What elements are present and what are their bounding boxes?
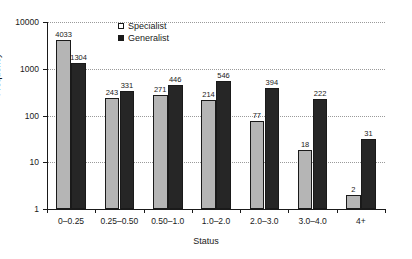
bar-value-label: 18 <box>301 140 309 149</box>
legend: SpecialistGeneralist <box>118 20 169 44</box>
bar-value-label: 214 <box>202 90 215 99</box>
y-axis-tick <box>43 162 47 163</box>
x-axis-tick-label: 0–0.25 <box>58 216 84 226</box>
x-axis-tick <box>288 209 289 213</box>
y-axis-tick-label: 1000 <box>0 64 39 74</box>
filled-square-swatch <box>118 35 124 41</box>
bar-specialist-3 <box>201 100 216 209</box>
bar-generalist-2 <box>168 85 183 209</box>
bar-generalist-3 <box>216 81 231 209</box>
x-axis-tick <box>144 209 145 213</box>
bar-specialist-2 <box>153 95 168 209</box>
open-square-swatch <box>118 23 124 29</box>
x-axis-title: Status <box>0 236 412 246</box>
bar-value-label: 271 <box>154 85 167 94</box>
y-axis-tick-label: 100 <box>0 111 39 121</box>
bar-value-label: 1304 <box>70 53 87 62</box>
x-axis-tick-label: 2.0–3.0 <box>250 216 278 226</box>
bar-value-label: 394 <box>266 78 279 87</box>
plot-area: 403313042433312714462145467739418222231 <box>47 22 385 209</box>
legend-item-label: Specialist <box>128 20 167 32</box>
legend-item-specialist: Specialist <box>118 20 169 32</box>
y-axis-tick <box>43 116 47 117</box>
bar-value-label: 222 <box>314 89 327 98</box>
bar-value-label: 243 <box>106 88 119 97</box>
bar-value-label: 77 <box>253 111 261 120</box>
bar-specialist-6 <box>346 195 361 209</box>
y-axis-tick-label: 10000 <box>0 17 39 27</box>
x-axis-tick <box>385 209 386 213</box>
y-axis-tick-label: 10 <box>0 157 39 167</box>
y-axis-line <box>47 22 48 209</box>
x-axis-tick-label: 0.25–0.50 <box>100 216 138 226</box>
legend-item-label: Generalist <box>128 32 169 44</box>
bar-specialist-4 <box>250 121 265 209</box>
x-axis-tick-label: 3.0–4.0 <box>298 216 326 226</box>
x-axis-tick <box>95 209 96 213</box>
bar-generalist-0 <box>71 63 86 209</box>
bar-value-label: 2 <box>351 185 355 194</box>
x-axis-tick-label: 4+ <box>356 216 366 226</box>
y-axis-tick <box>43 69 47 70</box>
bar-generalist-4 <box>265 88 280 209</box>
bar-specialist-1 <box>105 98 120 210</box>
bar-generalist-5 <box>313 99 328 209</box>
gridline <box>47 22 385 23</box>
bar-generalist-1 <box>120 91 135 209</box>
bar-value-label: 446 <box>169 75 182 84</box>
gridline <box>47 69 385 70</box>
x-axis-tick <box>240 209 241 213</box>
y-axis-title: Frequency <box>0 53 2 96</box>
y-axis-tick <box>43 22 47 23</box>
x-axis-line <box>47 209 385 210</box>
bar-value-label: 31 <box>364 129 372 138</box>
y-axis-tick-label: 1 <box>0 204 39 214</box>
bar-specialist-5 <box>298 150 313 209</box>
x-axis-tick <box>192 209 193 213</box>
x-axis-tick-label: 1.0–2.0 <box>202 216 230 226</box>
bar-value-label: 331 <box>121 81 134 90</box>
bar-value-label: 546 <box>217 71 230 80</box>
legend-item-generalist: Generalist <box>118 32 169 44</box>
bar-specialist-0 <box>56 40 71 209</box>
bar-value-label: 4033 <box>55 30 72 39</box>
bar-generalist-6 <box>361 139 376 209</box>
bar-chart: 403313042433312714462145467739418222231 … <box>0 0 412 259</box>
x-axis-tick <box>337 209 338 213</box>
x-axis-tick-label: 0.50–1.0 <box>151 216 184 226</box>
x-axis-tick <box>47 209 48 213</box>
